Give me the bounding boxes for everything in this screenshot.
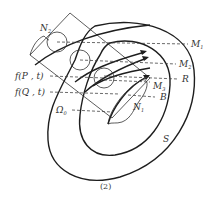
dash-fQ	[50, 92, 120, 94]
figure-caption: (2)	[100, 182, 111, 191]
label-Omega: Ω0	[55, 105, 67, 116]
flow-arrow-5	[108, 76, 148, 124]
diagram-canvas: N2 M1 M2 R M3 B N1 S f(P , t) f(Q , t) Ω…	[0, 0, 214, 201]
arrow-head-2	[140, 50, 147, 55]
dash-R	[104, 76, 178, 79]
label-M3: M3	[152, 81, 165, 92]
label-fQ: f(Q , t)	[14, 87, 45, 97]
dash-Omega	[72, 110, 112, 112]
label-M1: M1	[190, 39, 203, 50]
outer-region-curve	[48, 23, 195, 181]
label-fP: f(P , t)	[14, 71, 44, 81]
label-S: S	[163, 134, 169, 144]
label-B: B	[159, 92, 167, 102]
arrow-head-3	[142, 56, 149, 61]
label-R: R	[181, 74, 189, 84]
label-N1: N1	[132, 102, 144, 113]
label-N2: N2	[39, 23, 51, 34]
dash-M3	[104, 80, 150, 82]
label-M2: M2	[178, 59, 191, 70]
